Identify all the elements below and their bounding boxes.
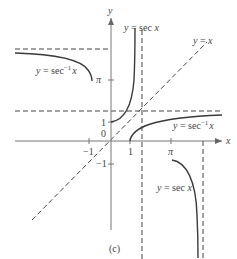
sec-label-top-var: x — [153, 22, 159, 33]
arcsec-right-label-sup: −1 — [201, 119, 209, 127]
identity-label: y = x — [192, 35, 213, 46]
arcsec-left-label-sup: −1 — [64, 64, 72, 72]
sec-label-top: y = sec x — [123, 22, 159, 33]
sec-upper-branch — [111, 28, 135, 122]
sec-lower-branch — [172, 160, 198, 258]
arcsec-right-label-var: x — [208, 120, 214, 131]
sec-label-bottom: y = sec x — [156, 182, 192, 193]
identity-label-var: x — [207, 35, 213, 46]
origin-label: 0 — [101, 128, 106, 139]
arcsec-right-label-text: = sec — [177, 120, 201, 131]
identity-label-text: = — [197, 35, 208, 46]
sec-label-bottom-var: x — [186, 182, 192, 193]
arcsec-right-label: y = sec−1x — [172, 119, 214, 131]
tick-label-y-neg1: −1 — [96, 158, 107, 169]
arcsec-left-label-text: = sec — [40, 65, 64, 76]
tick-label-y-1: 1 — [101, 117, 106, 128]
tick-label-x-1: 1 — [128, 146, 133, 157]
arcsec-left-label: y = sec−1x — [35, 64, 77, 76]
sec-label-bottom-text: = sec — [161, 182, 187, 193]
tick-label-x-pi: π — [168, 146, 174, 157]
arcsec-left-label-var: x — [71, 65, 77, 76]
tick-label-x-neg1: −1 — [83, 146, 94, 157]
figure-caption: (c) — [109, 243, 120, 255]
tick-label-y-pi: π — [96, 74, 102, 85]
sec-label-top-text: = sec — [128, 22, 154, 33]
y-axis-label: y — [107, 5, 113, 16]
inverse-secant-diagram: y x 0 −1 1 π π 1 −1 y = sec x y = x y = … — [0, 0, 237, 259]
x-axis-label: x — [225, 135, 231, 146]
